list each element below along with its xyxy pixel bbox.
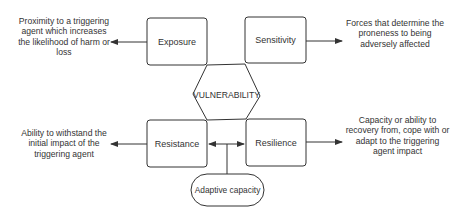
resistance-label: Resistance — [147, 120, 207, 167]
resilience-description: Capacity or ability to recovery from, co… — [345, 115, 450, 157]
resistance-description: Ability to withstand the initial impact … — [18, 128, 110, 159]
exposure-label: Exposure — [147, 18, 207, 65]
sensitivity-label: Sensitivity — [245, 17, 306, 63]
sensitivity-description: Forces that determine the proneness to b… — [340, 18, 450, 49]
adaptive-capacity-label: Adaptive capacity — [191, 174, 264, 206]
exposure-description: Proximity to a triggering agent which in… — [18, 16, 110, 58]
vulnerability-label: VULNERABILITY — [193, 85, 260, 105]
resilience-label: Resilience — [246, 119, 306, 166]
